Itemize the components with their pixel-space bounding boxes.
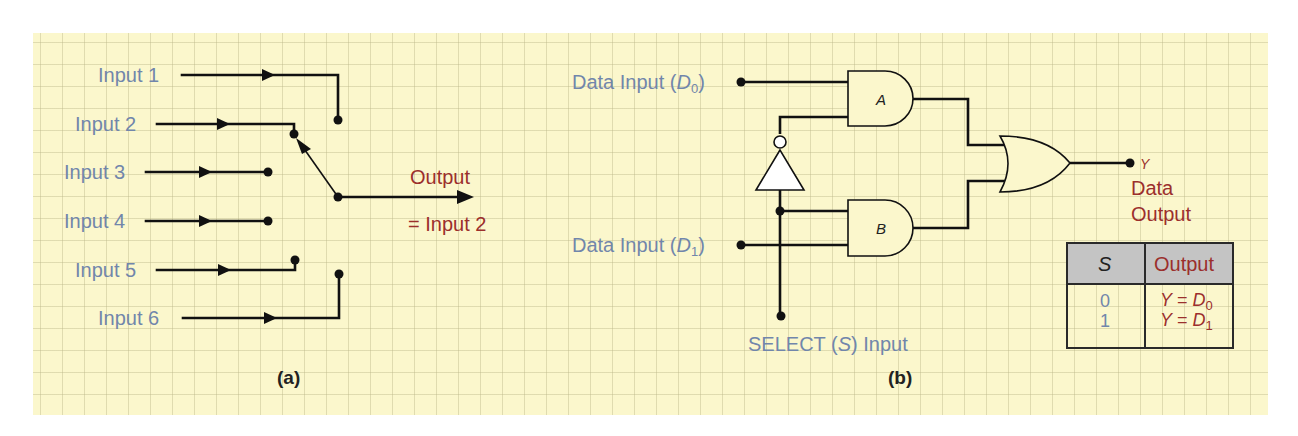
d0-prefix: Data Input (: [572, 71, 677, 93]
a-to-or-wire: [913, 99, 1006, 145]
b-to-or-wire: [913, 181, 1006, 228]
d1-terminal: [737, 241, 746, 250]
not-to-a-wire: [780, 117, 848, 134]
row-0-d: D: [1193, 290, 1206, 310]
row-1-d: D: [1193, 310, 1206, 330]
header-select: S: [1098, 254, 1111, 274]
arrow-icon: [199, 215, 212, 227]
input-6-label: Input 6: [98, 308, 159, 328]
arrow-icon: [199, 166, 212, 178]
select-terminal: [777, 312, 786, 321]
input-1-wire: [182, 75, 338, 120]
not-gate: [756, 150, 804, 190]
output-arrow-icon: [457, 190, 474, 204]
switch-pivot: [334, 193, 343, 202]
truth-table-divider: [1144, 244, 1146, 347]
d0-terminal: [737, 78, 746, 87]
output-label: Output: [410, 167, 470, 187]
d1-suffix: ): [698, 234, 705, 256]
select-suffix: ) Input: [851, 333, 908, 355]
arrow-icon: [217, 118, 230, 130]
input-3-label: Input 3: [64, 162, 125, 182]
header-output: Output: [1154, 254, 1214, 274]
select-junction: [776, 207, 785, 216]
d0-var: D: [677, 71, 691, 93]
data-output-line1: Data: [1131, 178, 1173, 198]
gate-b-label: B: [876, 221, 886, 236]
row-1-sub: 1: [1206, 318, 1213, 333]
row-0-s: 0: [1100, 292, 1110, 310]
input-6-wire: [183, 274, 339, 318]
switch-arm-arrow-icon: [296, 138, 311, 154]
row-1-output: Y = D1: [1160, 311, 1213, 329]
arrow-icon: [262, 69, 275, 81]
arrow-icon: [218, 264, 231, 276]
contact-6: [335, 270, 344, 279]
contact-4: [264, 217, 273, 226]
y-terminal: [1126, 159, 1135, 168]
row-1-y: Y: [1160, 310, 1172, 330]
not-gate-bubble: [774, 136, 786, 148]
row-0-output: Y = D0: [1160, 291, 1213, 309]
data-output-line2: Output: [1131, 204, 1191, 224]
contact-1: [334, 116, 343, 125]
gate-a-label: A: [876, 92, 886, 107]
row-1-s: 1: [1100, 312, 1110, 330]
d1-label: Data Input (D1): [572, 235, 705, 255]
input-5-label: Input 5: [75, 260, 136, 280]
row-0-y: Y: [1160, 290, 1172, 310]
truth-table: S Output 0 Y = D0 1 Y = D1: [1066, 242, 1234, 349]
select-prefix: SELECT (: [748, 333, 838, 355]
output-value: = Input 2: [408, 214, 486, 234]
caption-a: (a): [277, 368, 300, 387]
arrow-icon: [264, 312, 277, 324]
caption-b: (b): [888, 368, 912, 387]
contact-2: [290, 130, 299, 139]
row-1-eq: =: [1172, 310, 1193, 330]
circuit-diagrams: [0, 0, 1298, 436]
row-0-eq: =: [1172, 290, 1193, 310]
y-label: Y: [1140, 157, 1149, 171]
d1-var: D: [677, 234, 691, 256]
contact-5: [291, 256, 300, 265]
input-4-label: Input 4: [64, 211, 125, 231]
input-2-label: Input 2: [75, 114, 136, 134]
select-var: S: [838, 333, 851, 355]
d0-suffix: ): [698, 71, 705, 93]
input-1-label: Input 1: [98, 65, 159, 85]
contact-3: [264, 168, 273, 177]
d0-label: Data Input (D0): [572, 72, 705, 92]
figure-a-contacts: [264, 116, 344, 279]
or-gate: [1000, 136, 1070, 192]
select-label: SELECT (S) Input: [748, 334, 908, 354]
figure-a-wires: [146, 75, 460, 318]
d1-prefix: Data Input (: [572, 234, 677, 256]
